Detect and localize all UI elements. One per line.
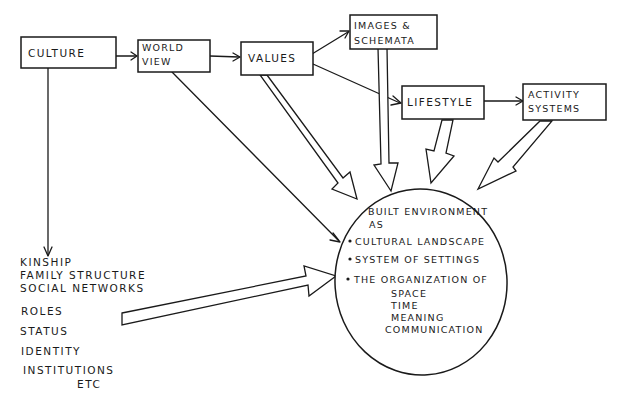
built-sub-1: SPACE xyxy=(391,288,427,299)
node-world-view-line1: WORLD xyxy=(142,42,184,53)
fat-arrow-lifestyle-built xyxy=(426,120,454,183)
fat-arrow-values-built xyxy=(260,75,357,199)
built-heading-1: BUILT ENVIRONMENT xyxy=(368,206,488,217)
node-activity-line1: ACTIVITY xyxy=(528,89,580,100)
node-culture-label: CULTURE xyxy=(28,47,85,59)
built-sub-4: COMMUNICATION xyxy=(385,324,484,335)
list-item: ROLES xyxy=(21,305,63,317)
node-world-view-line2: VIEW xyxy=(142,56,172,67)
node-activity-systems[interactable]: ACTIVITY SYSTEMS xyxy=(523,84,606,120)
list-item: KINSHIP xyxy=(20,256,72,268)
fat-arrow-list-built xyxy=(122,266,336,325)
edge-worldview-built xyxy=(172,72,340,242)
node-built-environment[interactable]: BUILT ENVIRONMENT AS CULTURAL LANDSCAPE … xyxy=(329,183,514,381)
built-bullet-1: CULTURAL LANDSCAPE xyxy=(355,236,485,247)
node-world-view[interactable]: WORLD VIEW xyxy=(138,40,210,72)
node-culture[interactable]: CULTURE xyxy=(21,37,116,68)
bullet-icon xyxy=(348,257,351,260)
edge-lifestyle-activity xyxy=(484,97,523,105)
built-sub-2: TIME xyxy=(390,300,419,311)
built-heading-2: AS xyxy=(369,219,384,230)
list-item: IDENTITY xyxy=(21,345,81,357)
edge-worldview-values xyxy=(210,53,240,61)
node-values-label: VALUES xyxy=(248,52,296,64)
edge-values-images xyxy=(312,31,349,54)
list-item: STATUS xyxy=(20,325,68,337)
built-sub-3: MEANING xyxy=(391,312,444,323)
built-bullet-2: SYSTEM OF SETTINGS xyxy=(355,254,480,265)
list-item: ETC xyxy=(77,378,101,390)
node-activity-line2: SYSTEMS xyxy=(528,103,580,114)
fat-arrow-images-built xyxy=(374,48,398,191)
list-item: FAMILY STRUCTURE xyxy=(20,269,146,281)
node-lifestyle-label: LIFESTYLE xyxy=(407,96,473,108)
bullet-icon xyxy=(348,239,351,242)
diagram-canvas: CULTURE WORLD VIEW VALUES IMAGES & SCHEM… xyxy=(0,0,621,402)
node-values[interactable]: VALUES xyxy=(241,42,313,75)
node-lifestyle[interactable]: LIFESTYLE xyxy=(402,86,484,119)
edge-culture-list xyxy=(44,67,52,256)
list-item: INSTITUTIONS xyxy=(23,364,115,376)
edge-culture-worldview xyxy=(116,52,137,60)
list-item: SOCIAL NETWORKS xyxy=(20,282,145,294)
node-images-line1: IMAGES & xyxy=(354,20,411,31)
node-images-line2: SCHEMATA xyxy=(354,35,415,46)
fat-arrow-activity-built xyxy=(478,121,552,189)
diagram-svg: CULTURE WORLD VIEW VALUES IMAGES & SCHEM… xyxy=(0,0,621,402)
node-images-schemata[interactable]: IMAGES & SCHEMATA xyxy=(350,15,437,49)
built-bullet-3: THE ORGANIZATION OF xyxy=(353,274,488,285)
bullet-icon xyxy=(346,277,349,280)
